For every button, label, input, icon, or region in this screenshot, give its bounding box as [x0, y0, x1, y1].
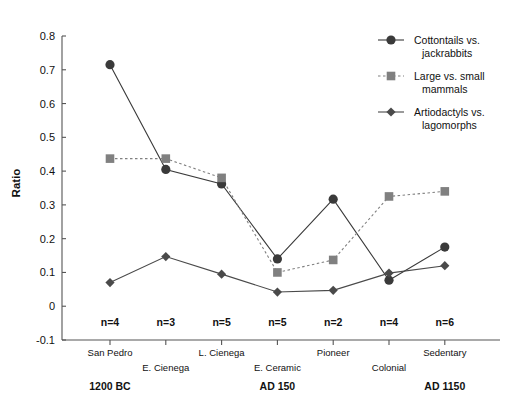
ratio-line-chart: 0.80.70.60.50.40.30.20.10-0.1 n=4n=3n=5n…: [0, 0, 522, 399]
sample-size-label: n=2: [324, 316, 343, 328]
legend-label: Artiodactyls vs.: [414, 106, 485, 118]
sample-size-label: n=5: [212, 316, 231, 328]
sample-size-label: n=3: [157, 316, 176, 328]
y-tick-label: 0.6: [40, 98, 55, 110]
data-point-circle: [105, 60, 114, 69]
data-point-square: [273, 268, 282, 277]
y-tick-label: 0.2: [40, 233, 55, 245]
data-point-circle: [273, 254, 282, 263]
category-label: E. Cienega: [142, 362, 190, 373]
chart-background: [0, 0, 522, 399]
sample-size-label: n=4: [380, 316, 399, 328]
y-tick-label: 0.8: [40, 30, 55, 42]
legend-label: lagomorphs: [422, 119, 477, 131]
data-point-circle: [440, 243, 449, 252]
sample-size-label: n=4: [101, 316, 120, 328]
data-point-square: [385, 192, 394, 201]
y-tick-label: 0: [49, 300, 55, 312]
y-tick-label: 0.1: [40, 266, 55, 278]
category-label: Colonial: [372, 362, 406, 373]
data-point-circle: [386, 35, 395, 44]
chart-container: 0.80.70.60.50.40.30.20.10-0.1 n=4n=3n=5n…: [0, 0, 522, 399]
y-tick-label: -0.1: [36, 334, 55, 346]
data-point-square: [217, 174, 226, 183]
y-tick-label: 0.7: [40, 64, 55, 76]
legend-label: Large vs. small: [414, 70, 485, 82]
y-axis-title: Ratio: [10, 169, 22, 198]
era-label: 1200 BC: [89, 380, 131, 392]
y-tick-label: 0.3: [40, 199, 55, 211]
data-point-square: [441, 187, 450, 196]
legend-label: jackrabbits: [421, 47, 472, 59]
data-point-square: [106, 154, 115, 163]
data-point-square: [162, 154, 171, 163]
category-label: Sedentary: [423, 347, 467, 358]
data-point-square: [387, 72, 396, 81]
category-label: E. Ceramic: [254, 362, 301, 373]
category-label: San Pedro: [88, 347, 133, 358]
era-label: AD 150: [260, 380, 296, 392]
y-tick-label: 0.5: [40, 131, 55, 143]
legend-label: mammals: [422, 83, 468, 95]
sample-size-label: n=6: [436, 316, 455, 328]
data-point-circle: [329, 195, 338, 204]
category-label: Pioneer: [317, 347, 350, 358]
y-tick-label: 0.4: [40, 165, 55, 177]
era-label: AD 1150: [424, 380, 465, 392]
data-point-circle: [161, 165, 170, 174]
sample-size-label: n=5: [268, 316, 287, 328]
category-label: L. Cienega: [199, 347, 246, 358]
legend-label: Cottontails vs.: [414, 34, 480, 46]
data-point-square: [329, 256, 338, 265]
